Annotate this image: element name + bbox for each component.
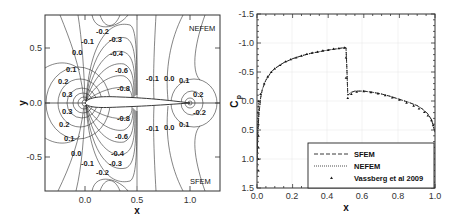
svg-text:-0.8: -0.8 bbox=[117, 84, 130, 93]
svg-text:0.1: 0.1 bbox=[179, 76, 189, 85]
nefem-series-line bbox=[257, 48, 435, 159]
svg-text:0.0: 0.0 bbox=[71, 149, 81, 158]
svg-text:-0.4: -0.4 bbox=[111, 149, 125, 158]
right-ytick-5: 1.0 bbox=[241, 154, 254, 164]
vassberg-data-point bbox=[430, 119, 433, 121]
vassberg-data-point bbox=[332, 48, 335, 50]
left-ylabel: y bbox=[17, 100, 28, 106]
right-ytick-0: -1.5 bbox=[238, 9, 254, 19]
svg-text:-0.3: -0.3 bbox=[109, 35, 122, 44]
left-xtick-0: 0.0 bbox=[79, 195, 92, 205]
cp-plot: 0.0 0.2 0.4 0.6 0.8 1.0 -1.5 -1.0 -0.5 0… bbox=[229, 9, 441, 213]
left-ytick-1: 0.0 bbox=[29, 98, 42, 108]
right-ytick-4: 0.5 bbox=[241, 125, 254, 135]
sfem-series-line bbox=[257, 48, 435, 159]
left-xtick-1: 0.5 bbox=[131, 195, 144, 205]
vassberg-data-point bbox=[412, 104, 415, 106]
left-ytick-0: 0.5 bbox=[29, 43, 42, 53]
right-xtick-3: 0.6 bbox=[356, 191, 369, 201]
left-xlabel: x bbox=[134, 205, 140, 216]
figure: 0.0 0.5 1.0 0.5 0.0 -0.5 x y NEFEM SFEM … bbox=[0, 0, 454, 219]
vassberg-data-point bbox=[295, 56, 298, 58]
svg-text:-0.2: -0.2 bbox=[96, 168, 109, 177]
svg-text:-0.2: -0.2 bbox=[193, 108, 206, 117]
svg-text:-0.4: -0.4 bbox=[110, 49, 124, 58]
right-ytick-2: -0.5 bbox=[238, 67, 254, 77]
svg-text:0.2: 0.2 bbox=[193, 90, 203, 99]
right-xtick-4: 0.8 bbox=[392, 191, 405, 201]
vassberg-data-point bbox=[274, 67, 277, 69]
svg-text:-0.1: -0.1 bbox=[146, 74, 159, 83]
svg-text:-0.2: -0.2 bbox=[96, 27, 109, 36]
right-xlabel: x bbox=[343, 202, 349, 213]
legend-sfem-label: SFEM bbox=[354, 150, 375, 159]
vassberg-data-point bbox=[418, 107, 421, 109]
svg-text:0.0: 0.0 bbox=[164, 74, 174, 83]
svg-text:0.3: 0.3 bbox=[62, 107, 72, 116]
vassberg-data-point bbox=[300, 54, 303, 56]
svg-text:-0.3: -0.3 bbox=[109, 159, 122, 168]
svg-text:-0.1: -0.1 bbox=[146, 124, 159, 133]
svg-text:0.2: 0.2 bbox=[58, 77, 68, 86]
nefem-label: NEFEM bbox=[189, 24, 215, 33]
svg-text:-0.6: -0.6 bbox=[115, 66, 128, 75]
svg-text:-0.8: -0.8 bbox=[117, 114, 130, 123]
svg-text:0.2: 0.2 bbox=[59, 120, 69, 129]
right-ytick-3: 0.0 bbox=[241, 96, 254, 106]
svg-text:0.0: 0.0 bbox=[72, 48, 82, 57]
legend-vassberg-label: Vassberg et al 2009 bbox=[354, 174, 423, 183]
right-xtick-1: 0.2 bbox=[286, 191, 299, 201]
svg-text:-0.1: -0.1 bbox=[81, 159, 94, 168]
sfem-label: SFEM bbox=[190, 177, 211, 186]
legend: SFEM NEFEM Vassberg et al 2009 bbox=[308, 143, 434, 188]
right-ytick-6: 1.5 bbox=[241, 183, 254, 193]
vassberg-data-point bbox=[290, 58, 293, 60]
right-xtick-2: 0.4 bbox=[321, 191, 334, 201]
vassberg-data-point bbox=[346, 97, 349, 99]
contour-plot: 0.0 0.5 1.0 0.5 0.0 -0.5 x y NEFEM SFEM … bbox=[17, 15, 220, 216]
svg-text:-0.1: -0.1 bbox=[81, 37, 94, 46]
svg-text:0.1: 0.1 bbox=[66, 65, 76, 74]
svg-text:0.1: 0.1 bbox=[179, 120, 189, 129]
vassberg-data-point bbox=[345, 56, 348, 58]
right-xtick-5: 1.0 bbox=[429, 191, 442, 201]
svg-text:C: C bbox=[229, 100, 240, 107]
svg-text:0.0: 0.0 bbox=[164, 123, 174, 132]
left-xtick-2: 1.0 bbox=[184, 195, 197, 205]
svg-text:p: p bbox=[235, 95, 243, 99]
svg-text:0.1: 0.1 bbox=[64, 134, 74, 143]
airfoil-shape bbox=[85, 97, 190, 108]
svg-text:0.3: 0.3 bbox=[62, 90, 72, 99]
svg-text:-0.6: -0.6 bbox=[115, 132, 128, 141]
legend-nefem-label: NEFEM bbox=[354, 162, 380, 171]
left-ytick-2: -0.5 bbox=[26, 152, 42, 162]
right-ytick-1: -1.0 bbox=[238, 38, 254, 48]
